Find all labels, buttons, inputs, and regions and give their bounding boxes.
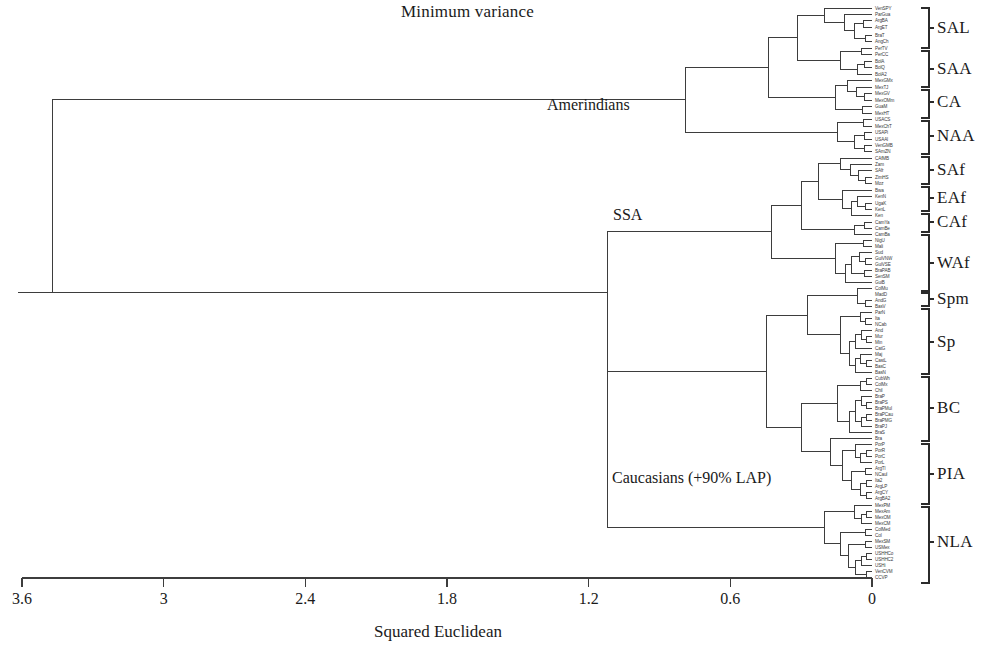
tree-branch-lines [18,8,872,577]
leaf-label: USAPi [875,130,888,135]
leaf-label: ArgLP [875,484,887,489]
dendrogram-figure: Minimum variance Amerindians SSA Caucasi… [0,0,985,654]
cluster-label-bc: BC [937,398,960,418]
leaf-label: BolA2 [875,72,887,77]
axis-lines [22,578,872,587]
leaf-label: MexAm [875,509,890,514]
leaf-label: PorP [875,442,885,447]
leaf-label: SAmZN [875,149,891,154]
leaf-label: BasN [875,370,886,375]
leaf-label: BraPJ [875,424,887,429]
leaf-label: MexSM [875,539,890,544]
leaf-label: BraPMul [875,406,892,411]
leaf-label: Maj [875,352,882,357]
leaf-label: And [875,328,883,333]
leaf-label: MexGV [875,91,890,96]
node-label-ssa: SSA [613,206,642,224]
leaf-label: Chil [875,388,883,393]
axis-tick-5: 0.6 [720,590,740,608]
leaf-label: KenN [875,194,886,199]
cluster-label-nla: NLA [937,532,973,552]
cluster-bracket-lines [921,8,934,583]
leaf-label: ZimHS [875,175,889,180]
leaf-label: ColMed [875,527,890,532]
leaf-label: AndG [875,298,886,303]
leaf-label: MexTJ [875,85,888,90]
leaf-label: BraPCau [875,412,893,417]
axis-tick-6: 0 [868,590,876,608]
leaf-label: MexGMx [875,78,893,83]
leaf-label: ColMu [875,286,888,291]
leaf-label: PerTV [875,46,888,51]
leaf-label: PorR [875,448,885,453]
leaf-label: Bwa [875,188,884,193]
leaf-label: SenSM [875,274,890,279]
leaf-label: BraPS [875,400,888,405]
leaf-label: Zam [875,162,884,167]
leaf-label: MexPM [875,503,890,508]
leaf-label: CamBa [875,232,890,237]
leaf-label: VenGMB [875,143,893,148]
leaf-label: USHHCo [875,551,893,556]
cluster-label-waf: WAf [937,253,970,273]
leaf-label: ParN [875,310,885,315]
cluster-label-ca: CA [937,92,961,112]
cluster-label-pia: PIA [937,464,965,484]
leaf-label: PerCC [875,52,888,57]
leaf-label: MadD [875,292,887,297]
leaf-label: BasV [875,304,886,309]
leaf-label: USHHC2 [875,557,893,562]
leaf-label: BraT [875,33,885,38]
leaf-label: SAfr [875,168,884,173]
leaf-label: Min [875,340,882,345]
leaf-label: GuiB [875,280,885,285]
axis-caption: Squared Euclidean [374,622,502,642]
leaf-label: USAAl [875,137,888,142]
leaf-label: NigU [875,238,885,243]
axis-tick-3: 1.8 [437,590,457,608]
leaf-label: Mur [875,334,883,339]
leaf-label: GuiVNW [875,256,892,261]
leaf-label: BolA [875,59,884,64]
axis-tick-1: 3 [160,590,168,608]
leaf-label: MexChT [875,124,892,129]
leaf-label: ArgCY [875,490,888,495]
leaf-label: MexOM [875,515,891,520]
leaf-label: ArgBA2 [875,496,890,501]
leaf-label: ArgET [875,25,888,30]
leaf-label: KenL [875,207,885,212]
leaf-label: CastL [875,358,887,363]
axis-tick-0: 3.6 [12,590,32,608]
cluster-label-sal: SAL [937,18,970,38]
cluster-label-naa: NAA [937,126,975,146]
leaf-label: CCVP [875,575,887,580]
node-label-amerindians: Amerindians [547,96,630,114]
chart-title: Minimum variance [401,2,534,22]
axis-tick-2: 2.4 [295,590,315,608]
leaf-label: USMex [875,545,890,550]
leaf-label: VenSPY [875,6,892,11]
leaf-label: UgaK [875,201,886,206]
cluster-label-saa: SAA [937,59,972,79]
leaf-label: GuiVSE [875,262,891,267]
leaf-label: PorL [875,460,884,465]
leaf-label: CatG [875,346,885,351]
leaf-label: PorC [875,454,885,459]
leaf-label: VenCVM [875,569,893,574]
leaf-label: USHi [875,563,885,568]
cluster-label-saf: SAf [937,160,965,180]
leaf-label: MexHT [875,111,889,116]
leaf-label: ParGua [875,12,890,17]
leaf-label: CubWh [875,376,890,381]
leaf-label: Mali [875,244,883,249]
leaf-label: ArgTl [875,466,885,471]
leaf-label: Ken [875,213,883,218]
leaf-label: Sud [875,250,883,255]
leaf-label: BraPMG [875,418,892,423]
leaf-label: MexOMm [875,98,894,103]
leaf-label: BraS [875,430,885,435]
leaf-label: CAfMB [875,156,889,161]
leaf-label: Ita2 [875,478,882,483]
leaf-label: Col [875,533,882,538]
leaf-label: ArgBA [875,18,888,23]
